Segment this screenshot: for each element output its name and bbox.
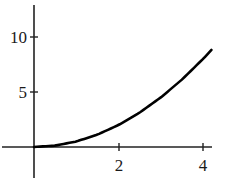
function-plot: 2 4 10 5 <box>0 0 225 178</box>
function-curve <box>34 50 211 147</box>
x-tick-label-4: 4 <box>199 156 208 175</box>
y-tick-label-10: 10 <box>10 28 27 47</box>
x-tick-label-2: 2 <box>115 156 124 175</box>
y-tick-label-5: 5 <box>19 83 28 102</box>
